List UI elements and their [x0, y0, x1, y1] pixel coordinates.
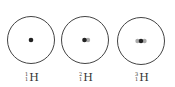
atom-protium — [0, 0, 175, 70]
label-tritium: 31H — [135, 71, 149, 83]
protium-diagram — [8, 17, 55, 64]
label-protium: 11H — [25, 71, 39, 83]
proton-1 — [29, 38, 34, 43]
proton-2 — [82, 38, 87, 43]
tritium-diagram — [118, 18, 165, 65]
deuterium-diagram — [62, 17, 109, 64]
label-deuterium: 21H — [79, 71, 93, 83]
proton-3 — [139, 39, 144, 44]
